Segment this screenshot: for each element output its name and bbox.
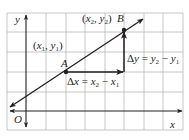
x-axis-label: x xyxy=(170,119,175,130)
point-A-label: A xyxy=(61,58,68,69)
origin-label: O xyxy=(14,114,22,125)
y-axis-label: y xyxy=(15,14,20,25)
point-A xyxy=(64,70,68,74)
delta-y-label: Δy = y2 − y1 xyxy=(127,53,179,64)
point-B-coord-label: (x2, y2) xyxy=(82,13,112,24)
point-A-coord-label: (x1, y1) xyxy=(33,40,63,51)
point-B-label: B xyxy=(117,13,124,24)
delta-x-label: Δx = x2 − x1 xyxy=(67,76,119,87)
point-B xyxy=(122,28,126,32)
